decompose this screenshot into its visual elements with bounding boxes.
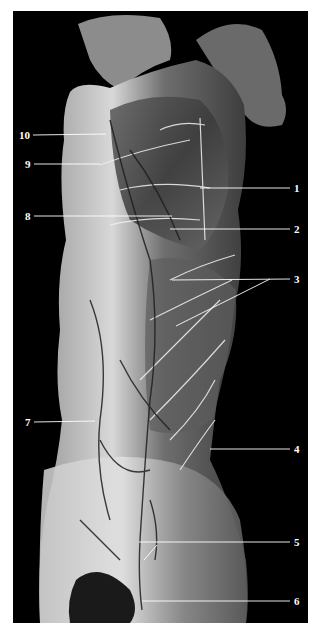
label-4: 4 [294,444,300,455]
specimen-photo [13,11,308,623]
label-8: 8 [25,211,31,222]
label-7: 7 [25,417,31,428]
label-1: 1 [294,183,300,194]
label-2: 2 [294,224,300,235]
label-10: 10 [19,130,30,141]
label-3: 3 [294,274,300,285]
label-5: 5 [294,537,300,548]
label-9: 9 [25,159,31,170]
label-6: 6 [294,596,300,607]
specimen-illustration [13,11,308,623]
